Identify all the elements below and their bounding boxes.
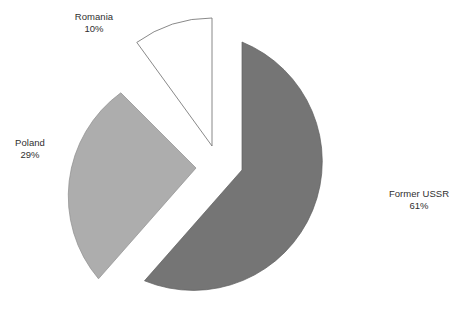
pie-chart-figure: Romania 10% Poland 29% Former USSR 61%	[0, 0, 455, 326]
pie-label-poland: Poland 29%	[2, 137, 58, 160]
pie-label-former-ussr-name: Former USSR	[386, 188, 452, 200]
pie-label-poland-value: 29%	[2, 149, 58, 161]
pie-label-romania-value: 10%	[62, 23, 126, 35]
pie-label-poland-name: Poland	[2, 137, 58, 149]
pie-label-romania-name: Romania	[62, 11, 126, 23]
pie-label-former-ussr-value: 61%	[386, 200, 452, 212]
pie-label-former-ussr: Former USSR 61%	[386, 188, 452, 211]
pie-chart-canvas	[0, 0, 455, 326]
pie-label-romania: Romania 10%	[62, 11, 126, 34]
